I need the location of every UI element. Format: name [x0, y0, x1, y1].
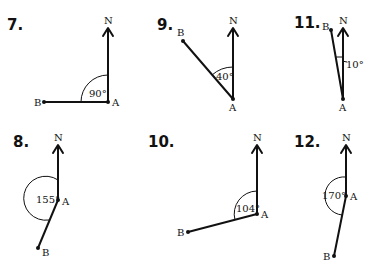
point-b-label: B [177, 27, 184, 38]
ray-ab [183, 41, 233, 99]
point-a [106, 100, 110, 104]
problem-10: 10. N 104° A B [148, 132, 269, 238]
angle-label: 10° [346, 59, 364, 70]
problem-number: 11. [294, 14, 321, 32]
problem-9: 9. N 40° A B [157, 15, 238, 113]
point-a [341, 97, 345, 101]
problem-number: 7. [7, 16, 23, 34]
point-b-label: B [42, 247, 49, 258]
problem-7: 7. N 90° A B [7, 15, 120, 108]
point-b [329, 28, 333, 32]
ray-ab [38, 200, 58, 248]
point-a [344, 194, 348, 198]
point-b [42, 100, 46, 104]
north-label: N [342, 132, 351, 143]
bearing-diagrams: 7. N 90° A B 9. N 40° A B 11. N 10° [0, 0, 374, 265]
point-b [332, 254, 336, 258]
point-b [186, 230, 190, 234]
ray-ab [188, 214, 257, 232]
point-a-label: A [111, 97, 120, 108]
north-label: N [253, 132, 262, 143]
point-a [231, 97, 235, 101]
north-label: N [229, 15, 238, 26]
point-b-label: B [322, 21, 329, 32]
point-a [255, 212, 259, 216]
problem-number: 10. [148, 133, 175, 151]
point-a-label: A [338, 102, 347, 113]
problem-number: 12. [294, 133, 321, 151]
point-a [56, 198, 60, 202]
problem-8: 8. N 155° A B [13, 132, 70, 258]
north-label: N [339, 15, 348, 26]
angle-label: 170° [322, 190, 346, 201]
point-b [36, 246, 40, 250]
point-a-label: A [260, 209, 269, 220]
point-a-label: A [228, 102, 237, 113]
ray-ab [331, 30, 343, 99]
point-b-label: B [34, 97, 41, 108]
point-b-label: B [177, 227, 184, 238]
problem-number: 9. [157, 16, 173, 34]
point-b [181, 39, 185, 43]
ray-ab [334, 196, 346, 256]
point-a-label: A [349, 191, 358, 202]
point-b-label: B [323, 251, 330, 262]
north-label: N [104, 15, 113, 26]
problem-11: 11. N 10° A B [294, 14, 364, 113]
point-a-label: A [61, 196, 70, 207]
problem-number: 8. [13, 133, 29, 151]
angle-label: 40° [216, 71, 234, 82]
angle-label: 90° [89, 88, 107, 99]
north-label: N [54, 132, 63, 143]
problem-12: 12. N 170° A B [294, 132, 358, 262]
